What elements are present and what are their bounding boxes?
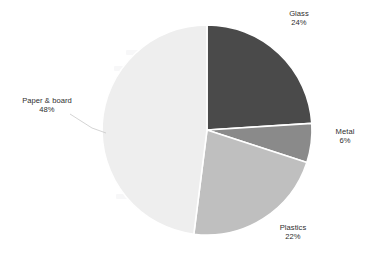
- slice-label-metal-value: 6%: [320, 137, 370, 146]
- slice-label-metal: Metal 6%: [320, 128, 370, 146]
- slice-label-plastics-value: 22%: [262, 233, 324, 242]
- pie-canvas: [0, 0, 372, 261]
- slice-label-paper-board-value: 48%: [4, 106, 90, 115]
- paper-board-leader-line: [70, 114, 106, 133]
- pie-slices-group: [102, 25, 312, 235]
- pie-chart: Glass 24% Metal 6% Plastics 22% Paper & …: [0, 0, 372, 261]
- slice-label-paper-board: Paper & board 48%: [4, 97, 90, 115]
- pie-slice-glass[interactable]: [207, 25, 312, 130]
- pie-slice-paper-board[interactable]: [102, 25, 207, 234]
- slice-label-glass: Glass 24%: [263, 10, 335, 28]
- slice-label-plastics: Plastics 22%: [262, 224, 324, 242]
- slice-label-glass-value: 24%: [263, 19, 335, 28]
